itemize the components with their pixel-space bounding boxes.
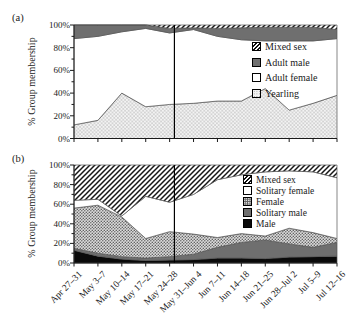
- y-tick-label: 100%: [28, 20, 70, 30]
- y-tick-label: 40%: [28, 219, 70, 229]
- legend-swatch-adult-female-icon: [252, 73, 261, 82]
- panel-a-legend: Mixed sexAdult maleAdult femaleYearling: [252, 39, 317, 101]
- legend-swatch-mixed-sex-icon: [252, 42, 261, 51]
- legend-swatch-adult-male-icon: [252, 58, 261, 67]
- legend-label: Solitary male: [256, 208, 307, 218]
- legend-item-yearling: Yearling: [252, 86, 317, 102]
- legend-item-male: Male: [243, 218, 314, 229]
- legend-label: Mixed sex: [265, 41, 307, 52]
- legend-item-female: Female: [243, 196, 314, 207]
- legend-item-mixed-sex: Mixed sex: [252, 39, 317, 55]
- legend-swatch-mixed-sex-icon: [243, 175, 252, 184]
- y-tick-label: 60%: [28, 199, 70, 209]
- legend-item-mixed-sex: Mixed sex: [243, 174, 314, 185]
- legend-swatch-solitary-female-icon: [243, 186, 252, 195]
- y-tick-label: 40%: [28, 88, 70, 98]
- y-tick-label: 0%: [28, 134, 70, 144]
- panel-a-label: (a): [12, 12, 24, 23]
- legend-label: Yearling: [265, 88, 299, 99]
- legend-item-adult-male: Adult male: [252, 55, 317, 71]
- y-tick-label: 20%: [28, 238, 70, 248]
- legend-item-solitary-male: Solitary male: [243, 207, 314, 218]
- figure-canvas: (a) (b) % Group membership % Group membe…: [0, 0, 354, 328]
- legend-swatch-female-icon: [243, 197, 252, 206]
- legend-swatch-solitary-male-icon: [243, 208, 252, 217]
- panel-b-legend: Mixed sexSolitary femaleFemaleSolitary m…: [243, 174, 314, 229]
- y-tick-label: 80%: [28, 180, 70, 190]
- y-tick-label: 60%: [28, 65, 70, 75]
- legend-swatch-male-icon: [243, 219, 252, 228]
- legend-label: Mixed sex: [256, 175, 296, 185]
- legend-label: Solitary female: [256, 186, 314, 196]
- legend-label: Adult female: [265, 72, 317, 83]
- y-tick-label: 100%: [28, 160, 70, 170]
- legend-label: Male: [256, 219, 276, 229]
- legend-label: Adult male: [265, 57, 310, 68]
- legend-swatch-yearling-icon: [252, 89, 261, 98]
- panel-a-y-axis-title: % Group membership: [26, 12, 39, 152]
- y-tick-label: 0%: [28, 258, 70, 268]
- legend-item-adult-female: Adult female: [252, 70, 317, 86]
- y-tick-label: 80%: [28, 43, 70, 53]
- panel-b-label: (b): [12, 153, 24, 164]
- legend-label: Female: [256, 197, 284, 207]
- legend-item-solitary-female: Solitary female: [243, 185, 314, 196]
- y-tick-label: 20%: [28, 111, 70, 121]
